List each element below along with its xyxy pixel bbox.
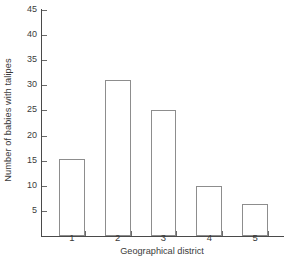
bar	[105, 80, 131, 236]
y-tick-label: 30	[11, 79, 37, 90]
y-tick-label: 45	[11, 4, 37, 15]
plot-area: 51015202530354045	[41, 9, 284, 237]
y-tick-label: 5	[11, 205, 37, 216]
bar	[196, 186, 222, 236]
y-tick	[42, 85, 47, 86]
y-tick	[42, 136, 47, 137]
x-tick-label: 5	[240, 232, 270, 243]
y-tick-label: 15	[11, 155, 37, 166]
x-tick-label: 2	[103, 232, 133, 243]
x-tick-label: 4	[194, 232, 224, 243]
bar	[151, 110, 177, 236]
y-axis-line	[41, 9, 42, 237]
bar	[59, 159, 85, 236]
x-tick-label: 3	[149, 232, 179, 243]
y-tick	[42, 211, 47, 212]
y-tick	[42, 60, 47, 61]
y-tick-label: 40	[11, 29, 37, 40]
y-tick	[42, 186, 47, 187]
y-tick	[42, 110, 47, 111]
x-tick-label: 1	[57, 232, 87, 243]
y-tick-label: 25	[11, 104, 37, 115]
y-tick	[42, 10, 47, 11]
bar-chart: Number of babies with talipes 5101520253…	[0, 0, 286, 262]
y-tick	[42, 35, 47, 36]
y-tick-label: 10	[11, 180, 37, 191]
x-axis-title: Geographical district	[40, 246, 284, 256]
y-tick-label: 20	[11, 130, 37, 141]
y-tick-label: 35	[11, 54, 37, 65]
y-tick	[42, 161, 47, 162]
